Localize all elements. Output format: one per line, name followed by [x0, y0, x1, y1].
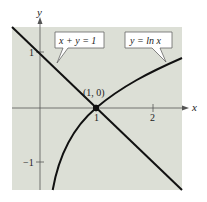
- y-tick-label-minus1: −1: [23, 157, 34, 168]
- x-axis-label: x: [191, 101, 197, 113]
- x-axis-arrow-icon: [182, 106, 189, 111]
- x-tick-label-2: 2: [150, 112, 155, 123]
- point-label: (1, 0): [83, 87, 105, 99]
- y-axis-label: y: [36, 6, 42, 18]
- x-tick-label-1: 1: [94, 112, 99, 123]
- y-axis-arrow-icon: [38, 17, 43, 24]
- intersection-point: [93, 105, 99, 111]
- callout-line-text: x + y = 1: [58, 35, 96, 46]
- graph-figure: 1 2 1 −1 x y (1, 0) x + y = 1 y = ln x: [0, 0, 207, 202]
- callout-log-text: y = ln x: [129, 35, 161, 46]
